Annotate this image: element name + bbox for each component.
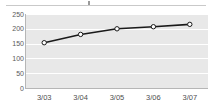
y-axis-tick-label: 200 [0, 25, 24, 32]
x-axis-line [26, 88, 208, 89]
x-axis-labels: 3/033/043/053/063/07 [26, 93, 208, 105]
data-point-marker [78, 32, 82, 36]
x-axis-tick-label: 3/04 [61, 93, 101, 102]
data-point-marker [151, 25, 155, 29]
y-axis-labels: 050100150200250 [0, 0, 24, 108]
y-axis-tick-label: 50 [0, 70, 24, 77]
clipped-title-remnant [0, 0, 212, 7]
data-point-marker [115, 27, 119, 31]
y-axis-tick-label: 250 [0, 11, 24, 18]
y-axis-tick-label: 150 [0, 40, 24, 47]
title-divider-rule [6, 5, 206, 6]
data-series-layer [26, 14, 208, 88]
y-axis-tick-label: 0 [0, 85, 24, 92]
y-axis-tick-label: 100 [0, 55, 24, 62]
data-point-marker [42, 41, 46, 45]
line-chart: 050100150200250 3/033/043/053/063/07 [0, 0, 212, 108]
title-tick-mark [88, 1, 90, 5]
x-axis-tick-label: 3/06 [133, 93, 173, 102]
x-axis-tick-label: 3/05 [97, 93, 137, 102]
x-axis-tick-label: 3/07 [170, 93, 210, 102]
x-axis-tick-label: 3/03 [24, 93, 64, 102]
data-point-marker [188, 22, 192, 26]
